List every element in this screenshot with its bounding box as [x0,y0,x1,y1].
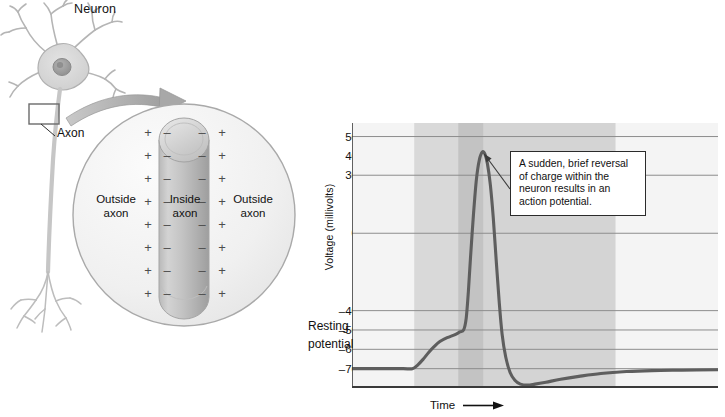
svg-text:+: + [218,263,226,278]
inside-axon-line2: axon [160,206,210,220]
arrow-right-icon [463,401,505,410]
svg-text:–: – [198,125,206,140]
y-axis-title: Voltage (millivolts) [323,162,335,292]
callout-line-3: neuron results in an [519,183,638,196]
svg-text:–: – [198,286,206,301]
svg-text:+: + [144,171,152,186]
svg-text:+: + [144,263,152,278]
svg-text:+: + [218,125,226,140]
outside-axon-left-line1: Outside [85,192,147,206]
resting-potential-line2: potential [308,335,353,353]
inside-axon-label: Inside axon [160,192,210,220]
action-potential-callout: A sudden, brief reversal of charge withi… [510,151,646,216]
svg-text:–: – [163,125,171,140]
neuron-illustration: ++ ++ ++ ++ ++ ++ ++ ++ –– –– –– –– –– –… [0,0,300,400]
svg-text:+: + [218,148,226,163]
callout-line-2: of charge within the [519,171,638,184]
axon-label: Axon [57,126,84,140]
svg-text:+: + [144,125,152,140]
figure-canvas: ++ ++ ++ ++ ++ ++ ++ ++ –– –– –– –– –– –… [0,0,725,417]
svg-text:–: – [198,240,206,255]
svg-text:+: + [218,240,226,255]
resting-potential-line1: Resting [308,317,353,335]
svg-text:–: – [163,148,171,163]
callout-line-1: A sudden, brief reversal [519,158,638,171]
depolarization-band [414,123,458,388]
svg-text:–: – [163,263,171,278]
svg-text:–: – [198,263,206,278]
inside-axon-line1: Inside [160,192,210,206]
outside-axon-left-label: Outside axon [85,192,147,220]
svg-text:+: + [218,286,226,301]
svg-text:–: – [198,148,206,163]
svg-text:–: – [163,171,171,186]
outside-axon-right-line1: Outside [222,192,284,206]
svg-text:+: + [144,148,152,163]
outside-axon-right-line2: axon [222,206,284,220]
x-axis-label-text: Time [430,399,455,411]
svg-text:–: – [163,240,171,255]
outside-axon-right-label: Outside axon [222,192,284,220]
x-axis-label: Time [430,399,505,411]
svg-text:–: – [163,286,171,301]
outside-axon-left-line2: axon [85,206,147,220]
svg-text:+: + [218,171,226,186]
resting-potential-label: Resting potential [308,317,353,353]
svg-text:+: + [144,286,152,301]
svg-text:–: – [198,171,206,186]
svg-text:+: + [144,240,152,255]
neuron-title-label: Neuron [74,2,116,16]
callout-line-4: action potential. [519,196,638,209]
action-potential-chart: Voltage (millivolts) 5040300–40–50–60–70… [305,118,725,417]
